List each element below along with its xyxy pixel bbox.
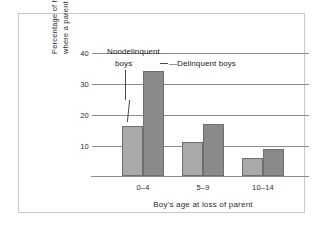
gridline-30 bbox=[97, 84, 309, 85]
leader-line-delinquent bbox=[160, 63, 168, 64]
figure-frame: Percentage of homes where a parent is ab… bbox=[18, 13, 305, 213]
annotation-nondelinquent-line1: Nondelinquent bbox=[107, 47, 160, 56]
bar-delinquent-10-14 bbox=[263, 149, 284, 176]
leader-line-nondelinquent-upper bbox=[125, 70, 126, 100]
x-tick-label-5-9: 5–9 bbox=[196, 183, 209, 192]
x-axis-line bbox=[91, 176, 309, 177]
y-tick-label-10: 10 bbox=[80, 142, 89, 151]
y-tick-label-40: 40 bbox=[80, 49, 89, 58]
plot-area: 40 30 20 10 0–4 5–9 10–14 bbox=[97, 53, 309, 177]
x-tick-label-10-14: 10–14 bbox=[252, 183, 274, 192]
y-axis-title-line2: where a parent is absent bbox=[60, 0, 71, 54]
bar-nondelinquent-0-4 bbox=[122, 126, 143, 176]
annotation-delinquent: —Delinquent boys bbox=[169, 59, 236, 68]
bar-delinquent-0-4 bbox=[143, 71, 164, 176]
y-tick-mark-20 bbox=[92, 115, 97, 116]
y-axis-title: Percentage of homes where a parent is ab… bbox=[49, 0, 71, 54]
y-tick-mark-30 bbox=[92, 84, 97, 85]
annotation-nondelinquent-line2: boys bbox=[115, 59, 132, 68]
bar-nondelinquent-10-14 bbox=[242, 158, 263, 176]
x-tick-label-0-4: 0–4 bbox=[136, 183, 149, 192]
y-axis-title-line1: Percentage of homes bbox=[50, 0, 59, 54]
y-tick-label-30: 30 bbox=[80, 80, 89, 89]
y-tick-label-20: 20 bbox=[80, 111, 89, 120]
y-tick-mark-40 bbox=[92, 53, 97, 54]
figure: Percentage of homes where a parent is ab… bbox=[0, 0, 322, 230]
bar-nondelinquent-5-9 bbox=[182, 142, 203, 176]
x-axis-title: Boy's age at loss of parent bbox=[97, 200, 309, 209]
y-tick-mark-10 bbox=[92, 146, 97, 147]
bar-delinquent-5-9 bbox=[203, 124, 224, 176]
gridline-20 bbox=[97, 115, 309, 116]
